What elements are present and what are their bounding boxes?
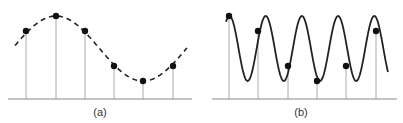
sample-point	[226, 13, 232, 19]
panel-a	[8, 13, 192, 99]
panel-a-caption: (a)	[93, 106, 106, 118]
panel-b-caption: (b)	[294, 106, 307, 118]
sample-point	[255, 28, 261, 34]
sample-point	[285, 63, 291, 69]
sample-point	[314, 78, 320, 84]
sample-point	[373, 28, 379, 34]
sample-point	[53, 13, 59, 19]
panel-b	[212, 13, 397, 99]
aliasing-diagram	[0, 0, 403, 123]
high-frequency-signal	[226, 16, 388, 81]
sample-point	[82, 28, 88, 34]
sample-point	[170, 63, 176, 69]
sample-point	[140, 78, 146, 84]
sample-point	[111, 63, 117, 69]
sample-point	[343, 63, 349, 69]
low-frequency-signal	[15, 16, 187, 81]
sample-point	[23, 28, 29, 34]
